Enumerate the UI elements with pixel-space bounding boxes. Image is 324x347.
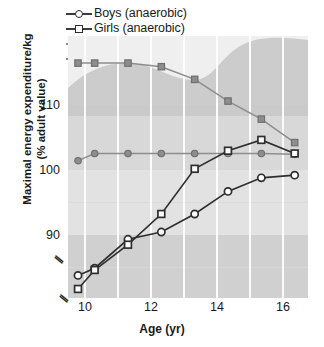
data-point — [75, 157, 81, 163]
data-point — [191, 76, 197, 82]
open-square-marker-icon — [66, 21, 92, 36]
series-boys-anaerobic — [74, 172, 298, 279]
series-girls-anaerobic — [75, 137, 298, 293]
plot-area — [68, 36, 308, 298]
y-tick-110: 110 — [40, 98, 60, 112]
data-point — [91, 150, 97, 156]
legend-label: Boys (anaerobic) — [92, 6, 187, 21]
data-point — [224, 188, 231, 195]
data-point — [291, 139, 297, 145]
data-point — [225, 98, 231, 104]
data-point — [125, 241, 132, 248]
y-tick-100: 100 — [39, 163, 60, 177]
data-point — [291, 150, 298, 157]
data-point — [125, 150, 131, 156]
data-point — [158, 150, 164, 156]
data-series-layer — [68, 36, 308, 298]
series-line — [78, 175, 295, 275]
data-point — [191, 165, 198, 172]
data-point — [75, 60, 81, 66]
data-point — [258, 174, 265, 181]
data-point — [75, 286, 82, 293]
data-point — [191, 150, 197, 156]
figure-container: Boys (anaerobic) Girls (anaerobic) Boys … — [0, 0, 324, 347]
x-axis-tick-labels: 10 12 14 16 — [68, 300, 308, 320]
series-boys-aerobic — [75, 150, 298, 164]
x-tick-14: 14 — [210, 300, 224, 314]
data-point — [91, 267, 98, 274]
legend-item-girls-anaerobic: Girls (anaerobic) — [66, 21, 246, 36]
data-point — [191, 210, 198, 217]
data-point — [258, 150, 264, 156]
series-line — [78, 63, 295, 143]
data-point — [291, 172, 298, 179]
data-point — [74, 272, 81, 279]
series-line — [78, 140, 295, 289]
y-tick-90: 90 — [46, 228, 60, 242]
open-circle-marker-icon — [66, 6, 92, 21]
data-point — [158, 64, 164, 70]
data-point — [91, 60, 97, 66]
data-point — [158, 211, 165, 218]
series-girls-aerobic — [75, 60, 298, 146]
data-point — [158, 228, 165, 235]
legend-label: Girls (anaerobic) — [92, 21, 185, 36]
x-tick-12: 12 — [144, 300, 158, 314]
x-axis-title: Age (yr) — [0, 322, 324, 336]
data-point — [125, 60, 131, 66]
x-tick-10: 10 — [78, 300, 92, 314]
data-point — [225, 147, 232, 154]
data-point — [258, 137, 265, 144]
x-tick-16: 16 — [276, 300, 290, 314]
data-point — [258, 116, 264, 122]
legend-item-boys-anaerobic: Boys (anaerobic) — [66, 6, 246, 21]
